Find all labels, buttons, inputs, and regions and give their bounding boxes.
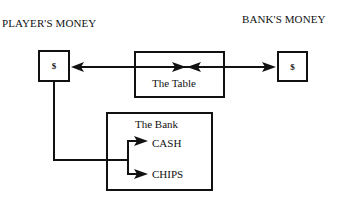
connector-lines [0,0,342,199]
